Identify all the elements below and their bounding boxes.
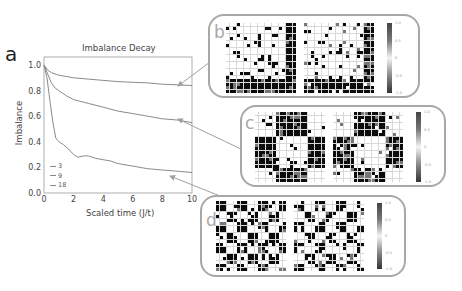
colorbar-tick-label: 1.0 <box>424 110 430 114</box>
colorbar-tick-label: 1.0 <box>385 201 391 205</box>
legend: 3 9 18 <box>50 162 66 191</box>
y-tick-label: 0.8 <box>28 87 41 96</box>
x-tick-label: 2 <box>71 195 76 204</box>
grid-cell <box>283 268 286 271</box>
x-tick-label: 8 <box>160 195 165 204</box>
y-tick-label: 0.4 <box>28 138 41 147</box>
panel-d-grid-left <box>216 201 286 271</box>
legend-entry-9: 9 <box>50 172 66 182</box>
panel-d-colorbar <box>377 203 382 269</box>
grid-cell <box>400 179 403 182</box>
x-tick-label: 0 <box>41 195 46 204</box>
legend-entry-3: 3 <box>50 162 66 172</box>
panel-label-b: b <box>214 22 225 42</box>
colorbar-tick-label: 0 <box>385 234 387 238</box>
x-tick-label: 10 <box>187 195 197 204</box>
legend-entry-18: 18 <box>50 181 66 191</box>
colorbar-tick-label: -1.0 <box>385 267 392 271</box>
colorbar-tick-label: 1.0 <box>395 21 401 25</box>
y-tick-label: 1.0 <box>28 61 41 70</box>
x-tick-label: 6 <box>130 195 135 204</box>
panel-b-grid-right <box>304 23 374 93</box>
chart-title: Imbalance Decay <box>82 43 156 53</box>
colorbar-tick-label: -0.5 <box>424 163 431 167</box>
panel-b-colorbar <box>387 23 392 93</box>
colorbar-tick-label: 0.5 <box>385 218 391 222</box>
colorbar-tick-label: -1.0 <box>395 91 402 95</box>
panel-d-grid-right <box>294 201 364 271</box>
y-tick-label: 0.2 <box>28 163 41 172</box>
panel-b-grid-left <box>226 23 296 93</box>
panel-c-colorbar <box>416 112 421 182</box>
grid-cell <box>371 90 374 93</box>
y-tick-label: 0.6 <box>28 112 41 121</box>
figure: 0.00.20.40.60.81.00246810 a Imbalance De… <box>0 0 462 291</box>
x-axis-label: Scaled time (J/t) <box>86 208 154 218</box>
colorbar-tick-label: -0.5 <box>385 251 392 255</box>
series-line-3 <box>44 65 192 86</box>
chart-lines <box>44 65 192 173</box>
colorbar-tick-label: -0.5 <box>395 74 402 78</box>
panel-label-c: c <box>245 113 254 133</box>
y-axis-label: Imbalance <box>14 98 24 148</box>
colorbar-tick-label: 0.5 <box>395 39 401 43</box>
series-line-9 <box>44 65 192 123</box>
y-tick-label: 0.0 <box>28 189 41 198</box>
grid-cell <box>361 268 364 271</box>
callout-arrow <box>178 119 243 150</box>
grid-cell <box>322 179 325 182</box>
colorbar-tick-label: -1.0 <box>424 180 431 184</box>
panel-label-a: a <box>5 42 17 66</box>
colorbar-tick-label: 0.5 <box>424 128 430 132</box>
panel-c-grid-left <box>255 112 325 182</box>
colorbar-tick-label: 0 <box>395 56 397 60</box>
panel-c-grid-right <box>333 112 403 182</box>
callout-arrow <box>178 62 210 86</box>
x-tick-label: 4 <box>101 195 106 204</box>
colorbar-tick-label: 0 <box>424 145 426 149</box>
grid-cell <box>293 90 296 93</box>
